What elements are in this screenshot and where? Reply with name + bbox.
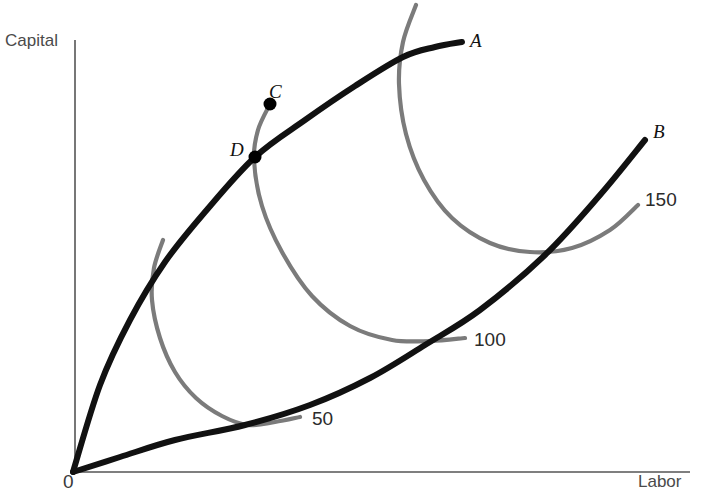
expansion-path-b bbox=[73, 140, 645, 472]
curve-label-b: B bbox=[653, 122, 665, 141]
isoquant-label-50: 50 bbox=[312, 409, 333, 428]
point-label-d: D bbox=[230, 140, 244, 159]
x-axis-label: Labor bbox=[638, 473, 681, 490]
isoquant-curve-50 bbox=[152, 240, 300, 425]
point-label-c: C bbox=[269, 82, 282, 101]
origin-label: 0 bbox=[63, 472, 74, 491]
plot-canvas bbox=[0, 0, 706, 504]
isoquant-diagram: Capital Labor 0 A B C D 50 100 150 bbox=[0, 0, 706, 504]
isoquant-curve-100 bbox=[254, 104, 465, 342]
isoquant-curve-150 bbox=[399, 5, 638, 252]
isoquant-label-100: 100 bbox=[474, 330, 506, 349]
y-axis-label: Capital bbox=[5, 32, 58, 49]
faint-top-artifact bbox=[95, 0, 99, 12]
point-d-marker bbox=[249, 151, 262, 164]
curve-label-a: A bbox=[470, 31, 482, 50]
isoquant-label-150: 150 bbox=[645, 190, 677, 209]
